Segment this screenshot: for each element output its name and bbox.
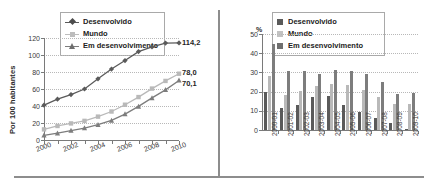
legend-label: Mundo: [83, 30, 108, 38]
data-point-marker: [69, 121, 73, 125]
data-point-marker: [149, 95, 154, 100]
x-axis-tick-label: 2008: [143, 141, 160, 153]
bar: [389, 123, 392, 130]
y-axis-tick-label: 10: [238, 107, 258, 114]
data-point-marker: [149, 44, 154, 49]
x-axis-tick-label: 2009-10: [413, 112, 420, 136]
gridline: [262, 92, 418, 93]
end-label-desenvolvido: 114,2: [182, 39, 200, 47]
bar: [299, 91, 302, 130]
y-axis-tick-label: 20: [18, 120, 40, 127]
bar: [264, 92, 267, 130]
dark-swatch-icon: [277, 19, 283, 25]
x-axis-tick-label: 2004-05: [335, 112, 342, 136]
x-axis-tick-label: 2007-08: [382, 112, 389, 136]
bar-chart-panel: % Desenvolvido Mundo Em desenvolvimento …: [220, 0, 438, 178]
x-axis-tick-label: 2003-04: [319, 112, 326, 136]
y-axis-tick-label: 20: [238, 88, 258, 95]
bar: [280, 108, 283, 130]
data-point-marker: [163, 79, 167, 83]
bar: [408, 104, 411, 130]
y-axis-tick-label: 40: [18, 103, 40, 110]
gridline: [262, 53, 418, 54]
bar: [311, 97, 314, 130]
line-chart-plot-area: 020406080100120200020022004200620082010: [44, 38, 179, 140]
line-chart-panel: Por 100 habitantes Desenvolvido Mundo: [0, 0, 218, 178]
data-point-marker: [82, 119, 86, 123]
bar: [358, 112, 361, 130]
dual-chart-figure: Por 100 habitantes Desenvolvido Mundo: [0, 0, 438, 192]
data-point-marker: [150, 86, 154, 90]
x-axis-tick-label: 2006: [116, 141, 133, 153]
legend-label: Desenvolvido: [83, 18, 132, 26]
x-axis-tick-label: 2008-09: [397, 112, 404, 136]
x-axis-tick-label: 2001-02: [288, 112, 295, 136]
data-point-marker: [177, 72, 181, 76]
data-point-marker: [68, 92, 73, 97]
bar: [296, 105, 299, 130]
data-point-marker: [42, 127, 46, 131]
legend-item-desenvolvido[interactable]: Desenvolvido: [277, 16, 379, 28]
end-label-em-desenvolvimento: 70,1: [182, 80, 197, 88]
y-axis-tick-label: 0: [238, 127, 258, 134]
y-axis-tick-label: 50: [238, 31, 258, 38]
data-point-marker: [176, 40, 181, 45]
bar: [330, 84, 333, 130]
line-chart-y-axis-title: Por 100 habitantes: [8, 66, 17, 135]
legend-label: Desenvolvido: [288, 18, 337, 26]
y-axis-tick-label: 100: [18, 52, 40, 59]
y-axis-tick-label: 30: [238, 69, 258, 76]
gridline: [262, 72, 418, 73]
x-axis-tick-label: 2006-07: [366, 112, 373, 136]
data-point-marker: [163, 41, 168, 46]
line-series-diamond: [44, 43, 179, 105]
bar: [327, 96, 330, 130]
x-axis-tick-label: 2000-01: [272, 112, 279, 136]
bar: [405, 129, 408, 130]
gridline: [262, 34, 418, 35]
y-axis-tick-label: 40: [238, 50, 258, 57]
y-axis-tick-label: 0: [18, 137, 40, 144]
diamond-marker-icon: [65, 17, 79, 27]
x-axis-tick-label: 2010: [170, 141, 187, 153]
data-point-marker: [176, 78, 181, 83]
y-axis-tick-label: 80: [18, 69, 40, 76]
bar: [377, 97, 380, 130]
bar: [342, 105, 345, 130]
data-point-marker: [136, 95, 140, 99]
x-axis-tick-label: 2005-06: [350, 112, 357, 136]
x-axis-tick-label: 2002: [62, 141, 79, 153]
data-point-marker: [55, 124, 59, 128]
x-axis-tick-label: 2004: [89, 141, 106, 153]
bar-chart-plot-area: 010203040502000-012001-022002-032003-042…: [262, 34, 418, 130]
bar: [374, 118, 377, 130]
y-axis-line: [262, 34, 263, 131]
data-point-marker: [55, 97, 60, 102]
end-label-mundo: 78,0: [182, 69, 197, 77]
line-series-layer: [44, 38, 193, 142]
data-point-marker: [136, 104, 141, 109]
x-axis-tick-label: 2002-03: [304, 112, 311, 136]
data-point-marker: [123, 103, 127, 107]
line-series-triangle: [44, 80, 179, 135]
y-axis-tick-label: 120: [18, 35, 40, 42]
legend-item-desenvolvido[interactable]: Desenvolvido: [65, 16, 159, 28]
data-point-marker: [109, 109, 113, 113]
y-axis-tick-label: 60: [18, 86, 40, 93]
data-point-marker: [96, 114, 100, 118]
